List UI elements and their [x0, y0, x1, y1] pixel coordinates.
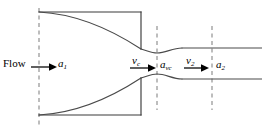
velocity-outlet-label: v2	[186, 55, 194, 66]
area-contracta-symbol: a	[160, 58, 166, 70]
area-inlet-symbol: a	[58, 57, 64, 69]
velocity-outlet-subscript: 2	[191, 60, 195, 68]
area-outlet-subscript: 2	[222, 64, 226, 72]
flow-arrow-head	[49, 63, 57, 71]
area-inlet-subscript: 1	[64, 63, 68, 71]
orifice-flow-diagram: Flow a1 vc avc v2 a2	[0, 0, 262, 135]
area-contracta-label: avc	[160, 59, 172, 70]
flow-label: Flow	[3, 58, 26, 69]
lower-converging-streamline	[39, 78, 141, 115]
channel-walls	[39, 12, 141, 115]
area-outlet-symbol: a	[216, 58, 222, 70]
upper-jet-streamline	[141, 48, 182, 53]
area-contracta-subscript: vc	[166, 64, 172, 72]
velocity-contracta-label: vc	[132, 55, 140, 66]
area-inlet-label: a1	[58, 58, 67, 69]
vc-arrow-head	[148, 64, 156, 72]
upper-converging-streamline	[39, 12, 141, 49]
area-outlet-label: a2	[216, 59, 225, 70]
lower-jet-streamline	[141, 74, 182, 79]
v2-arrow-head	[201, 64, 209, 72]
streamlines	[39, 12, 262, 115]
velocity-contracta-subscript: c	[137, 60, 140, 68]
